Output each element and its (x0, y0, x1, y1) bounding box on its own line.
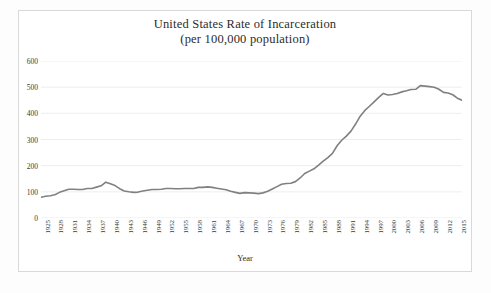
x-tick-1970: 1970 (252, 220, 260, 234)
x-tick-1973: 1973 (266, 220, 274, 234)
x-tick-1955: 1955 (182, 220, 190, 234)
x-tick-1928: 1928 (57, 220, 65, 234)
y-tick-400: 400 (14, 109, 38, 118)
x-tick-2003: 2003 (404, 220, 412, 234)
x-tick-1976: 1976 (279, 220, 287, 234)
y-axis-tick-labels: 0100200300400500600 (12, 61, 38, 218)
x-tick-2015: 2015 (460, 220, 468, 234)
x-tick-2006: 2006 (418, 220, 426, 234)
y-tick-0: 0 (14, 214, 38, 223)
x-tick-1979: 1979 (293, 220, 301, 234)
x-tick-1961: 1961 (210, 220, 218, 234)
line-chart-svg (41, 61, 462, 218)
y-tick-200: 200 (14, 161, 38, 170)
y-tick-100: 100 (14, 187, 38, 196)
y-tick-500: 500 (14, 83, 38, 92)
x-axis-title: Year (18, 253, 472, 263)
x-tick-1931: 1931 (71, 220, 79, 234)
y-tick-600: 600 (14, 57, 38, 66)
x-tick-1925: 1925 (44, 220, 52, 234)
x-tick-1967: 1967 (238, 220, 246, 234)
x-tick-1937: 1937 (99, 220, 107, 234)
gridlines (41, 61, 462, 218)
x-tick-1982: 1982 (307, 220, 315, 234)
series-line-incarceration-rate (41, 86, 462, 198)
x-tick-2009: 2009 (432, 220, 440, 234)
x-tick-2012: 2012 (446, 220, 454, 234)
chart-figure: United States Rate of Incarceration (per… (0, 0, 491, 293)
x-tick-1988: 1988 (335, 220, 343, 234)
x-tick-2000: 2000 (390, 220, 398, 234)
chart-title-line-2: (per 100,000 population) (18, 32, 472, 47)
x-tick-1997: 1997 (377, 220, 385, 234)
x-tick-1943: 1943 (127, 220, 135, 234)
x-tick-1991: 1991 (349, 220, 357, 234)
x-axis-tick-labels: 1925192819311934193719401943194619491952… (41, 220, 462, 254)
x-tick-1985: 1985 (321, 220, 329, 234)
x-tick-1994: 1994 (363, 220, 371, 234)
x-tick-1964: 1964 (224, 220, 232, 234)
x-tick-1949: 1949 (155, 220, 163, 234)
y-tick-300: 300 (14, 135, 38, 144)
x-tick-1940: 1940 (113, 220, 121, 234)
x-tick-1934: 1934 (85, 220, 93, 234)
x-tick-1946: 1946 (141, 220, 149, 234)
chart-title-line-1: United States Rate of Incarceration (18, 17, 472, 32)
x-tick-1958: 1958 (196, 220, 204, 234)
x-tick-1952: 1952 (168, 220, 176, 234)
chart-title: United States Rate of Incarceration (per… (18, 17, 472, 47)
plot-area (41, 61, 462, 218)
